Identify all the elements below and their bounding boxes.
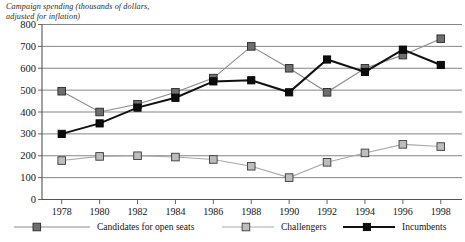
y-tick-label: 800	[20, 19, 36, 30]
x-tick-label: 1984	[165, 206, 185, 217]
y-tick-label: 100	[20, 172, 36, 183]
data-point-marker	[134, 152, 142, 160]
data-point-marker	[58, 157, 66, 165]
x-tick-label: 1998	[431, 206, 451, 217]
y-tick-label: 200	[20, 150, 36, 161]
plot-area: 0100200300400500600700800 19781980198219…	[0, 0, 465, 242]
data-point-marker	[437, 143, 445, 151]
data-point-marker	[323, 89, 331, 97]
data-point-marker	[323, 159, 331, 167]
data-point-marker	[172, 153, 180, 161]
data-point-marker	[437, 61, 444, 68]
x-tick-label: 1982	[128, 206, 148, 217]
data-point-marker	[96, 120, 103, 127]
x-tick-label: 1978	[52, 206, 72, 217]
data-point-marker	[172, 94, 179, 101]
data-point-marker	[286, 89, 293, 96]
campaign-spending-chart: Campaign spending (thousands of dollars,…	[0, 0, 465, 242]
y-tick-labels-group: 0100200300400500600700800	[20, 19, 36, 205]
legend-marker-swatch	[33, 223, 41, 231]
data-point-marker	[361, 149, 369, 157]
y-tick-label: 400	[20, 107, 36, 118]
data-point-marker	[210, 156, 218, 164]
data-point-marker	[323, 56, 330, 63]
legend-marker-swatch	[242, 223, 250, 231]
data-point-marker	[247, 43, 255, 51]
x-tick-label: 1988	[241, 206, 261, 217]
x-tick-marks-group	[62, 200, 441, 205]
data-point-marker	[361, 68, 368, 75]
data-point-marker	[248, 77, 255, 84]
data-point-marker	[437, 35, 445, 43]
x-tick-label: 1992	[317, 206, 337, 217]
legend-label: Incumbents	[402, 222, 447, 232]
data-point-marker	[399, 141, 407, 149]
y-tick-label: 300	[20, 128, 36, 139]
y-tick-label: 600	[20, 63, 36, 74]
x-tick-label: 1986	[203, 206, 223, 217]
x-tick-label: 1990	[279, 206, 299, 217]
data-point-marker	[58, 87, 66, 95]
x-tick-labels-group: 1978198019821984198619881990199219941996…	[52, 206, 451, 217]
data-point-marker	[96, 153, 104, 161]
x-tick-label: 1980	[90, 206, 110, 217]
x-tick-label: 1994	[355, 206, 375, 217]
y-tick-label: 700	[20, 41, 36, 52]
legend-label: Candidates for open seats	[97, 222, 195, 232]
data-point-marker	[285, 64, 293, 72]
data-point-marker	[210, 78, 217, 85]
data-point-marker	[399, 46, 406, 53]
chart-legend: Candidates for open seatsChallengersIncu…	[14, 222, 447, 232]
data-point-marker	[247, 162, 255, 170]
series-lines-group	[62, 39, 441, 178]
data-point-marker	[285, 174, 293, 182]
series-line	[62, 50, 441, 134]
legend-label: Challengers	[281, 222, 327, 232]
x-tick-label: 1996	[393, 206, 413, 217]
data-point-marker	[58, 130, 65, 137]
y-tick-label: 0	[31, 194, 36, 205]
y-tick-label: 500	[20, 85, 36, 96]
series-line	[62, 144, 441, 177]
data-point-marker	[134, 104, 141, 111]
legend-marker-swatch	[363, 223, 370, 230]
data-point-marker	[96, 108, 104, 116]
